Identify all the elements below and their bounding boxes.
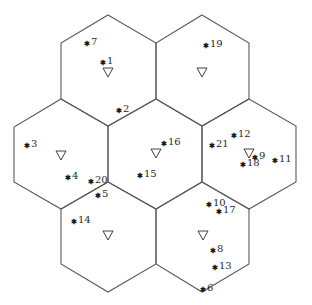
base-station-icon — [198, 231, 208, 240]
user-marker: ✱14 — [71, 214, 91, 226]
user-label: 13 — [219, 260, 232, 271]
user-marker: ✱8 — [210, 243, 223, 255]
base-station-icon — [56, 151, 66, 160]
asterisk-icon: ✱ — [65, 173, 71, 182]
user-marker: ✱12 — [231, 128, 251, 140]
base-station-icon — [103, 68, 113, 77]
user-label: 20 — [95, 174, 108, 185]
user-marker: ✱18 — [240, 157, 260, 169]
base-station-icon — [103, 231, 113, 240]
user-marker: ✱16 — [161, 136, 181, 148]
asterisk-icon: ✱ — [137, 171, 143, 180]
asterisk-icon: ✱ — [203, 41, 209, 50]
asterisk-icon: ✱ — [161, 139, 167, 148]
user-label: 5 — [102, 188, 108, 199]
user-label: 6 — [207, 282, 213, 293]
user-label: 14 — [78, 214, 91, 225]
asterisk-icon: ✱ — [212, 263, 218, 272]
cell-bottom-left — [61, 182, 156, 292]
user-label: 2 — [123, 103, 129, 114]
asterisk-icon: ✱ — [100, 58, 106, 67]
user-label: 17 — [223, 204, 236, 215]
asterisk-icon: ✱ — [206, 200, 212, 209]
asterisk-icon: ✱ — [116, 106, 122, 115]
user-label: 11 — [279, 153, 292, 164]
user-label: 15 — [144, 168, 157, 179]
user-layer: ✱1✱2✱3✱4✱5✱6✱7✱8✱9✱10✱11✱12✱13✱14✱15✱16✱… — [24, 36, 292, 294]
asterisk-icon: ✱ — [209, 141, 215, 150]
hexagonal-cell-diagram: ✱1✱2✱3✱4✱5✱6✱7✱8✱9✱10✱11✱12✱13✱14✱15✱16✱… — [0, 0, 312, 305]
asterisk-icon: ✱ — [231, 131, 237, 140]
asterisk-icon: ✱ — [210, 246, 216, 255]
asterisk-icon: ✱ — [240, 160, 246, 169]
asterisk-icon: ✱ — [71, 217, 77, 226]
user-label: 21 — [216, 138, 229, 149]
asterisk-icon: ✱ — [272, 156, 278, 165]
user-label: 19 — [210, 38, 223, 49]
user-label: 8 — [217, 243, 223, 254]
user-marker: ✱15 — [137, 168, 157, 180]
user-label: 16 — [168, 136, 181, 147]
user-label: 12 — [238, 128, 251, 139]
user-label: 18 — [247, 157, 260, 168]
user-marker: ✱11 — [272, 153, 292, 165]
user-label: 9 — [259, 150, 265, 161]
user-marker: ✱2 — [116, 103, 129, 115]
user-label: 4 — [72, 170, 78, 181]
asterisk-icon: ✱ — [216, 207, 222, 216]
user-marker: ✱4 — [65, 170, 78, 182]
user-marker: ✱13 — [212, 260, 232, 272]
user-label: 1 — [107, 55, 113, 66]
cell-top-right — [156, 15, 249, 126]
asterisk-icon: ✱ — [200, 285, 206, 294]
user-marker: ✱21 — [209, 138, 229, 150]
user-marker: ✱20 — [88, 174, 108, 186]
cell-bottom-right — [156, 182, 249, 292]
asterisk-icon: ✱ — [24, 141, 30, 150]
user-marker: ✱1 — [100, 55, 113, 67]
user-label: 3 — [31, 138, 37, 149]
user-marker: ✱19 — [203, 38, 223, 50]
cell-mid-left — [14, 99, 108, 209]
user-marker: ✱6 — [200, 282, 213, 294]
asterisk-icon: ✱ — [88, 177, 94, 186]
user-marker: ✱7 — [84, 36, 97, 48]
user-marker: ✱5 — [95, 188, 108, 200]
base-station-icon — [151, 149, 161, 158]
asterisk-icon: ✱ — [95, 191, 101, 200]
asterisk-icon: ✱ — [84, 39, 90, 48]
user-marker: ✱3 — [24, 138, 37, 150]
user-label: 7 — [91, 36, 97, 47]
cell-center — [108, 99, 202, 209]
cell-top-left — [61, 15, 156, 126]
base-station-icon — [197, 68, 207, 77]
